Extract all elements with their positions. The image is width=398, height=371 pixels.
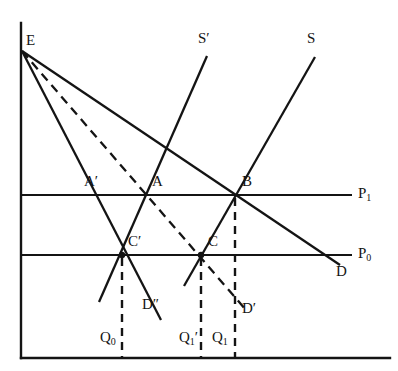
curve-label-s: S [307,31,315,46]
price-label-p1: P1 [358,186,371,201]
curve-label-d: D [336,264,347,279]
quantity-label-q1: Q1 [212,330,228,345]
price-label-p0: P0 [358,246,371,261]
supply-demand-diagram: P1P0D″D′DS′SQ0Q1′Q1EA′ABC′C [0,0,398,371]
point-label-e: E [26,33,35,48]
axes-group [21,23,390,358]
point-label-c-prime: C′ [128,234,141,249]
curve-d [22,51,340,265]
price-level-lines-group [21,195,352,255]
curve-label-s-prime: S′ [198,31,209,46]
quantity-label-q1-prime: Q1′ [179,330,198,345]
point-dot-c [198,252,204,258]
curve-s [184,57,315,286]
curve-label-d-double-prime: D″ [142,297,159,312]
curves-group [22,51,340,320]
point-dot-c-prime [119,252,125,258]
point-label-b: B [242,174,252,189]
point-label-a: A [152,174,163,189]
diagram-canvas [0,0,398,371]
point-label-a-prime: A′ [84,174,98,189]
quantity-label-q0: Q0 [100,330,116,345]
point-label-c: C [208,234,218,249]
curve-label-d-prime: D′ [242,301,256,316]
